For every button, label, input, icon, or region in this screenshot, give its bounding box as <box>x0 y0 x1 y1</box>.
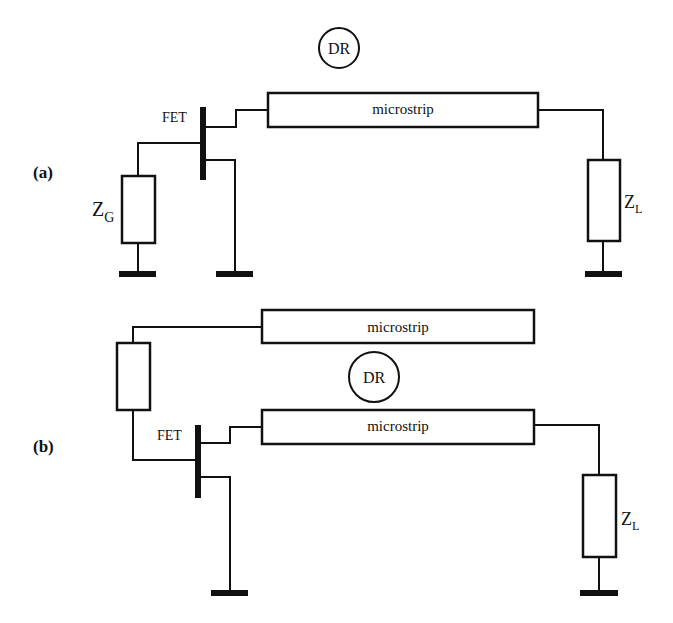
panel-b: (b) microstrip DR microstrip FET <box>33 310 639 596</box>
microstrip-top-b: microstrip <box>262 310 534 343</box>
feedback-resistor-b <box>117 343 150 410</box>
microstrip-bottom-b: microstrip <box>262 410 534 444</box>
dr-label-b: DR <box>363 369 386 386</box>
microstrip-label-a: microstrip <box>372 101 434 117</box>
dielectric-resonator-a: DR <box>319 28 359 68</box>
microstrip-label-bottom-b: microstrip <box>367 418 429 434</box>
dr-label-a: DR <box>328 40 351 57</box>
load-impedance-a: ZL <box>588 160 642 241</box>
ground-icon <box>585 271 622 277</box>
fet-label-a: FET <box>162 110 187 125</box>
zl-label-b: ZL <box>621 509 639 533</box>
microstrip-label-top-b: microstrip <box>367 319 429 335</box>
microstrip-a: microstrip <box>268 93 538 127</box>
fet-label-b: FET <box>157 428 182 443</box>
ground-icon <box>211 590 248 596</box>
oscillator-diagram: (a) DR microstrip FET ZG <box>0 0 673 623</box>
zl-label-a: ZL <box>624 192 642 216</box>
ground-icon <box>216 271 253 277</box>
ground-icon <box>119 271 156 277</box>
zg-label: ZG <box>92 198 114 225</box>
fet-b: FET <box>157 425 201 498</box>
panel-a: (a) DR microstrip FET ZG <box>33 28 642 277</box>
gate-impedance-a: ZG <box>92 176 155 243</box>
ground-icon <box>580 590 618 596</box>
panel-b-label: (b) <box>33 437 54 456</box>
dielectric-resonator-b: DR <box>349 352 399 402</box>
load-impedance-b: ZL <box>583 475 639 557</box>
panel-a-label: (a) <box>33 163 53 182</box>
